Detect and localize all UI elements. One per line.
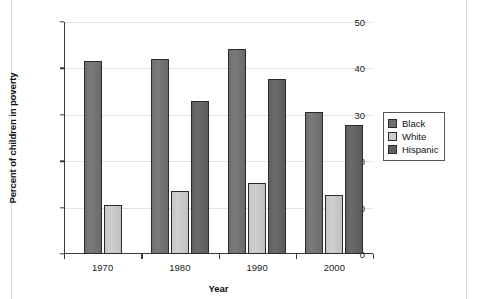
x-tick-mark-3 [296, 254, 297, 259]
x-tick-label-1970: 1970 [73, 262, 133, 273]
legend-item-black: Black [388, 117, 438, 130]
x-tick-label-2000: 2000 [304, 262, 364, 273]
y-tick-mark-10 [60, 207, 64, 208]
legend-label-black: Black [402, 118, 425, 129]
bar-white-1970 [104, 205, 122, 254]
plot-area: 01020304050 1970198019902000 Percent of … [64, 22, 373, 254]
y-tick-label-30: 30 [325, 109, 365, 120]
chart-figure: 01020304050 1970198019902000 Percent of … [0, 0, 478, 299]
bar-white-1990 [248, 183, 266, 254]
legend-item-white: White [388, 130, 438, 143]
bar-black-2000 [305, 112, 323, 254]
x-tick-mark-end [373, 254, 374, 259]
bar-black-1980 [151, 59, 169, 254]
x-tick-label-1990: 1990 [227, 262, 287, 273]
page-rule-right [466, 0, 467, 299]
x-tick-mark-1 [141, 254, 142, 259]
y-tick-label-40: 40 [325, 63, 365, 74]
y-tick-mark-50 [60, 21, 64, 22]
x-tick-mark-0 [64, 254, 65, 259]
legend-swatch-black [388, 119, 397, 128]
bar-hispanic-1990 [268, 79, 286, 254]
bar-white-2000 [325, 195, 343, 254]
legend-label-hispanic: Hispanic [402, 144, 438, 155]
x-tick-label-1980: 1980 [150, 262, 210, 273]
y-axis-label: Percent of children in poverty [7, 38, 18, 238]
y-tick-label-50: 50 [325, 17, 365, 28]
y-tick-mark-20 [60, 160, 64, 161]
legend-label-white: White [402, 131, 426, 142]
bar-black-1990 [228, 49, 246, 254]
legend-swatch-white [388, 132, 397, 141]
y-tick-mark-40 [60, 68, 64, 69]
legend: BlackWhiteHispanic [383, 112, 445, 161]
legend-swatch-hispanic [388, 145, 397, 154]
bar-white-1980 [171, 191, 189, 254]
x-tick-mark-2 [219, 254, 220, 259]
bar-hispanic-1980 [191, 101, 209, 254]
legend-item-hispanic: Hispanic [388, 143, 438, 156]
x-axis-label: Year [64, 283, 373, 294]
bar-hispanic-2000 [345, 125, 363, 254]
bar-black-1970 [84, 61, 102, 254]
y-tick-mark-30 [60, 114, 64, 115]
